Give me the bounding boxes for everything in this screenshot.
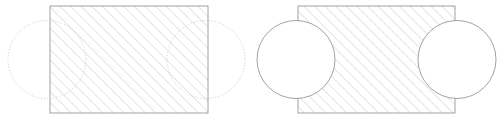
- hatch-area: [298, 6, 455, 113]
- figure-before-boolean: [8, 6, 245, 113]
- hatch-fill-before: [50, 6, 208, 113]
- diagram-canvas: [0, 0, 504, 121]
- boolean-operation-diagram: [0, 0, 504, 121]
- figure-after-boolean: [257, 6, 496, 113]
- hatch-area: [50, 6, 208, 113]
- hatch-fill-after: [298, 6, 455, 113]
